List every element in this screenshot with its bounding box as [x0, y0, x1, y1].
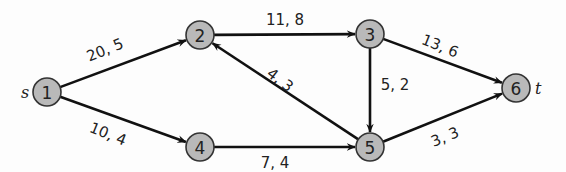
edge-label-5-6: 3, 3 [428, 123, 461, 150]
node-label: 6 [511, 79, 522, 99]
node-2: 2 [186, 21, 214, 49]
node-1: 1 [33, 78, 61, 106]
node-label: 5 [365, 138, 376, 158]
edge-label-4-5: 7, 4 [261, 154, 290, 172]
node-label: 2 [195, 26, 206, 46]
edge-label-3-5: 5, 2 [381, 76, 410, 94]
flow-network-diagram: 20, 510, 411, 84, 35, 213, 67, 43, 3 123… [0, 0, 566, 172]
edge-label-1-4: 10, 4 [87, 119, 129, 150]
node-5: 5 [356, 133, 384, 161]
edge-label-2-3: 11, 8 [266, 11, 304, 29]
node-3: 3 [356, 20, 384, 48]
node-label: 4 [195, 138, 206, 158]
edge-2-3 [214, 34, 355, 35]
node-label: 1 [42, 83, 53, 103]
graph-canvas: 20, 510, 411, 84, 35, 213, 67, 43, 3 123… [0, 0, 566, 172]
node-6: 6 [502, 74, 530, 102]
edge-label-3-6: 13, 6 [419, 31, 461, 62]
source-label: s [21, 83, 29, 102]
node-label: 3 [365, 25, 376, 45]
sink-label: t [535, 79, 542, 98]
edge-label-5-2: 4, 3 [263, 64, 297, 96]
node-4: 4 [186, 133, 214, 161]
edge-label-1-2: 20, 5 [84, 35, 126, 66]
